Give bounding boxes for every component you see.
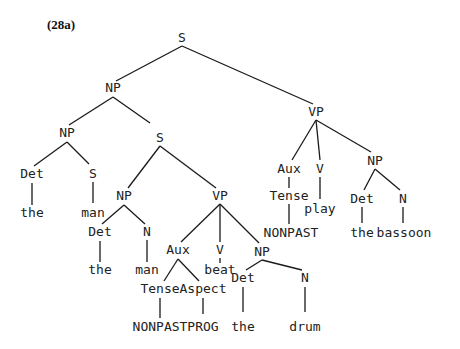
tree-node-np-obj-rel: NP (254, 244, 270, 259)
tree-edge (375, 169, 400, 190)
tree-node-tense-rel: Tense (140, 281, 179, 296)
tree-edges (32, 46, 403, 318)
syntax-tree: SNPNPDetSthemanSNPDetNthemanVPAuxVNPTens… (0, 0, 460, 349)
tree-edge (364, 169, 375, 190)
tree-edge (160, 146, 216, 188)
tree-edge (292, 120, 316, 160)
tree-node-n-4: N (399, 191, 407, 206)
tree-node-word-drum: drum (289, 319, 320, 334)
tree-edge (220, 204, 259, 243)
tree-node-np-obj-main: NP (367, 153, 383, 168)
tree-edge (128, 146, 160, 188)
tree-node-det-2: Det (88, 224, 111, 239)
tree-node-word-the-1: the (20, 205, 44, 220)
tree-node-np-inner: NP (59, 125, 75, 140)
tree-edge (67, 142, 89, 164)
tree-edge (246, 260, 262, 270)
tree-node-word-play: play (304, 201, 335, 216)
tree-node-det-1: Det (20, 166, 43, 181)
tree-node-np-subj: NP (105, 80, 121, 95)
tree-node-vp-rel: VP (212, 188, 228, 203)
tree-edge (164, 259, 178, 281)
tree-node-word-man-2: man (135, 262, 158, 277)
tree-edge (316, 120, 371, 152)
tree-node-s-rel-empty: S (89, 166, 97, 181)
tree-node-word-nonpast-main: NONPAST (264, 225, 319, 240)
tree-edge (178, 259, 199, 281)
tree-node-det-3: Det (231, 270, 254, 285)
tree-node-vp-main: VP (308, 104, 324, 119)
tree-node-v-rel: V (216, 242, 224, 257)
tree-node-word-bassoon: bassoon (377, 225, 432, 240)
tree-node-det-4: Det (350, 191, 373, 206)
tree-nodes: SNPNPDetSthemanSNPDetNthemanVPAuxVNPTens… (20, 30, 431, 334)
tree-node-s-rel: S (156, 130, 164, 145)
tree-node-v-main: V (316, 161, 324, 176)
tree-node-aspect-rel: Aspect (180, 281, 227, 296)
tree-edge (116, 46, 182, 81)
tree-edge (124, 205, 145, 224)
tree-edge (113, 97, 150, 123)
tree-edge (182, 46, 313, 104)
tree-node-tense-main: Tense (269, 188, 308, 203)
tree-node-aux-main: Aux (277, 161, 301, 176)
tree-edge (102, 205, 124, 224)
tree-node-n-2: N (143, 224, 151, 239)
tree-node-aux-rel: Aux (166, 242, 190, 257)
tree-node-n-3: N (301, 270, 309, 285)
tree-edge (34, 142, 67, 166)
tree-edge (316, 120, 320, 160)
tree-node-word-the-3: the (231, 319, 255, 334)
tree-node-word-nonpast-rel: NONPAST (133, 319, 188, 334)
tree-edge (69, 97, 113, 125)
tree-node-np-rel: NP (116, 188, 132, 203)
tree-node-s-root: S (178, 30, 186, 45)
tree-edge (181, 204, 220, 242)
tree-node-word-the-2: the (88, 262, 112, 277)
tree-node-word-the-4: the (350, 225, 374, 240)
tree-node-word-prog: PROG (187, 319, 218, 334)
tree-node-word-man-1: man (81, 205, 104, 220)
tree-edge (262, 260, 302, 270)
